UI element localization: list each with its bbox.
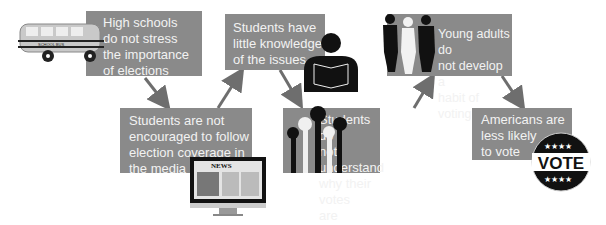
raised-hands-icon xyxy=(283,100,353,173)
svg-text:SCHOOL BUS: SCHOOL BUS xyxy=(38,42,64,47)
node-label: High schools do not stress the importanc… xyxy=(103,15,202,79)
arrow-3 xyxy=(280,70,300,104)
reading-student-icon xyxy=(300,32,362,92)
svg-text:VOTE: VOTE xyxy=(538,154,584,173)
young-adults-icon xyxy=(380,12,438,74)
arrow-1 xyxy=(145,78,167,106)
school-bus-icon: SCHOOL BUS xyxy=(16,20,106,66)
arrow-4 xyxy=(414,78,432,108)
vote-button-icon: ★★★★ VOTE ★★★★ xyxy=(531,132,591,192)
svg-text:★★★★: ★★★★ xyxy=(544,142,572,151)
svg-text:★★★★: ★★★★ xyxy=(544,175,572,184)
news-monitor-icon: NEWS xyxy=(189,156,267,218)
svg-text:NEWS: NEWS xyxy=(211,162,232,170)
arrow-2 xyxy=(218,72,241,108)
